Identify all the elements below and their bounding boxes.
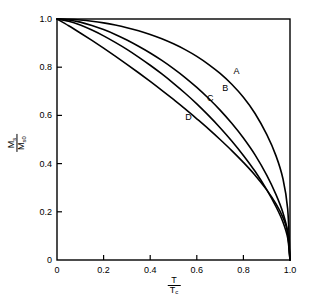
curve-label-a: A [233,66,239,76]
x-axis-tick-label: 0.2 [97,265,110,275]
curve-c [57,19,290,260]
curve-b [57,19,290,260]
y-axis-tick-label: 0.4 [25,159,52,169]
plot-frame [57,19,290,260]
y-axis-title: Ms Ms0 [7,134,28,152]
x-axis-tick-label: 0.6 [191,265,204,275]
y-axis-tick-label: 0 [25,255,52,265]
y-axis-tick-label: 0.2 [25,207,52,217]
curve-a [57,19,290,260]
y-axis-title-denominator: Ms0 [17,134,27,152]
y-axis-tick-label: 0.8 [25,62,52,72]
x-axis-title-numerator: T [168,276,181,285]
y-axis-title-numerator: Ms [7,134,16,152]
x-axis-title: T Tc [168,276,181,297]
x-axis-title-denominator: Tc [168,285,181,295]
x-axis-tick-label: 0.8 [237,265,250,275]
curve-label-c: C [207,93,214,103]
x-axis-tick-label: 0 [54,265,59,275]
y-axis-tick-label: 1.0 [25,14,52,24]
curve-label-d: D [185,112,192,122]
curve-d [57,19,290,260]
curve-label-b: B [222,83,228,93]
figure: T Tc Ms Ms0 00.20.40.60.81.000.20.40.60.… [0,0,311,306]
x-axis-tick-label: 0.4 [144,265,157,275]
x-axis-tick-label: 1.0 [284,265,297,275]
y-axis-tick-label: 0.6 [25,110,52,120]
